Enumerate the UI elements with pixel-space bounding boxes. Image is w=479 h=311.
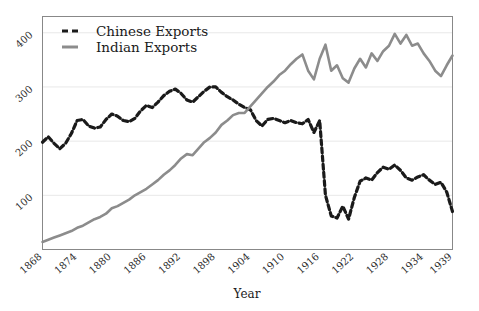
legend-label-chinese: Chinese Exports bbox=[96, 23, 208, 39]
chart-container: 1868187418801886189218981904191019161922… bbox=[0, 0, 479, 311]
legend-label-indian: Indian Exports bbox=[96, 39, 197, 55]
line-chart: 1868187418801886189218981904191019161922… bbox=[0, 0, 479, 311]
x-axis-title: Year bbox=[233, 287, 261, 301]
